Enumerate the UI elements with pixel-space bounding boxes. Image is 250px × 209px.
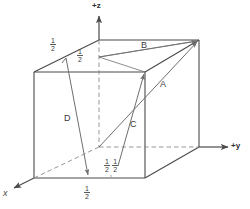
axis-label-x: x xyxy=(3,189,8,198)
vector-a-arrow xyxy=(99,42,197,147)
vector-label-b: B xyxy=(141,41,147,50)
fraction-top-left: 1 2 xyxy=(50,37,56,53)
vector-label-d: D xyxy=(64,114,71,123)
fraction-origin-second: 1 2 xyxy=(112,158,118,174)
fraction-label-bottom-center: 1 2 xyxy=(84,184,90,201)
tick-marks xyxy=(62,58,66,63)
axis-label-y: +y xyxy=(231,142,240,150)
fraction-separator: , xyxy=(110,170,112,177)
diagram-canvas xyxy=(0,0,250,209)
vector-b-base-edge xyxy=(99,57,145,72)
axis-x xyxy=(14,178,34,188)
vector-label-c: C xyxy=(130,120,137,129)
fraction-label-origin-pair: 1 2 , 1 2 xyxy=(104,157,118,174)
fraction-label-top-inner: 1 2 xyxy=(77,47,83,64)
vector-b-arrow xyxy=(99,41,197,57)
fraction-top-inner: 1 2 xyxy=(77,48,83,64)
fraction-bottom-center: 1 2 xyxy=(84,185,90,201)
vector-label-a: A xyxy=(160,80,166,89)
vector-cube-figure: +z +y x A B C D 1 2 1 2 1 2 1 2 , 1 2 xyxy=(0,0,250,209)
cube-front-face xyxy=(34,72,145,178)
axis-label-z: +z xyxy=(92,2,101,10)
fraction-label-top-left: 1 2 xyxy=(50,36,56,53)
